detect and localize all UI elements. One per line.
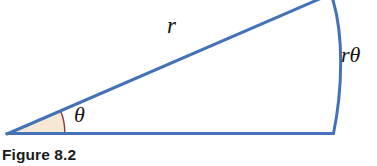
figure-container: r θ rθ Figure 8.2: [0, 0, 377, 166]
radius-label: r: [167, 14, 176, 37]
angle-label: θ: [74, 104, 85, 126]
sector-diagram: [0, 0, 377, 166]
radius-line: [7, 0, 324, 134]
figure-caption: Figure 8.2: [2, 147, 76, 163]
arc-r-theta: [331, 0, 341, 134]
arc-length-label: rθ: [341, 44, 360, 66]
